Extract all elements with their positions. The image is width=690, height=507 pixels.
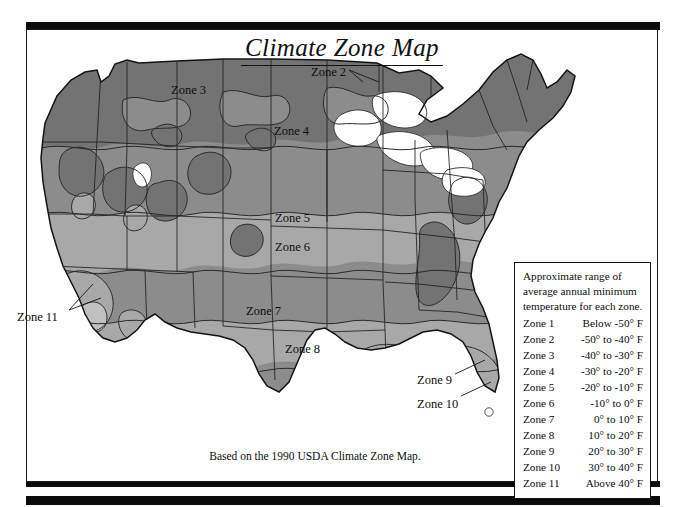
legend-zone-name: Zone 8 xyxy=(523,427,554,443)
map-label-zone-5: Zone 5 xyxy=(275,212,310,225)
map-label-zone-8: Zone 8 xyxy=(285,343,320,356)
legend-row: Zone 4-30° to -20° F xyxy=(523,363,643,379)
legend-heading-line-1: Approximate range of xyxy=(523,269,643,284)
legend-zone-name: Zone 11 xyxy=(523,475,560,491)
legend-zone-name: Zone 4 xyxy=(523,363,554,379)
legend-zone-range: -40° to -30° F xyxy=(581,347,643,363)
legend-zone-range: 0° to 10° F xyxy=(594,411,643,427)
map-plate: Climate Zone Map Zone 2Zone 3Zone 4Zone … xyxy=(26,29,658,482)
legend-box: Approximate range of average annual mini… xyxy=(514,262,651,499)
map-label-zone-9: Zone 9 xyxy=(417,374,452,387)
legend-zone-name: Zone 5 xyxy=(523,379,554,395)
map-label-zone-3: Zone 3 xyxy=(171,84,206,97)
legend-row: Zone 810° to 20° F xyxy=(523,427,643,443)
legend-zone-name: Zone 7 xyxy=(523,411,554,427)
legend-rows: Zone 1Below -50° FZone 2-50° to -40° FZo… xyxy=(523,315,643,491)
legend-zone-range: Below -50° F xyxy=(583,315,643,331)
map-label-zone-4: Zone 4 xyxy=(274,125,309,138)
legend-zone-name: Zone 6 xyxy=(523,395,554,411)
legend-row: Zone 2-50° to -40° F xyxy=(523,331,643,347)
map-caption: Based on the 1990 USDA Climate Zone Map. xyxy=(27,450,659,462)
legend-row: Zone 6-10° to 0° F xyxy=(523,395,643,411)
legend-row: Zone 70° to 10° F xyxy=(523,411,643,427)
legend-row: Zone 1Below -50° F xyxy=(523,315,643,331)
map-label-zone-2: Zone 2 xyxy=(311,66,346,79)
map-label-zone-10: Zone 10 xyxy=(417,398,458,411)
legend-zone-range: -20° to -10° F xyxy=(581,379,643,395)
legend-zone-range: -50° to -40° F xyxy=(581,331,643,347)
legend-row: Zone 5-20° to -10° F xyxy=(523,379,643,395)
map-caption-text: Based on the 1990 USDA Climate Zone Map. xyxy=(209,450,420,462)
legend-zone-name: Zone 1 xyxy=(523,315,554,331)
legend-zone-range: -10° to 0° F xyxy=(590,395,643,411)
legend-row: Zone 11Above 40° F xyxy=(523,475,643,491)
legend-zone-range: -30° to -20° F xyxy=(581,363,643,379)
legend-zone-range: 10° to 20° F xyxy=(588,427,643,443)
map-label-zone-7: Zone 7 xyxy=(246,305,281,318)
legend-heading-line-2: average annual minimum xyxy=(523,284,643,299)
legend-zone-name: Zone 3 xyxy=(523,347,554,363)
legend-heading: Approximate range of average annual mini… xyxy=(523,269,643,314)
legend-zone-name: Zone 2 xyxy=(523,331,554,347)
legend-heading-line-3: temperature for each zone. xyxy=(523,299,643,314)
legend-zone-range: Above 40° F xyxy=(586,475,643,491)
map-label-zone-6: Zone 6 xyxy=(275,241,310,254)
map-label-zone-11: Zone 11 xyxy=(17,311,58,324)
legend-row: Zone 3-40° to -30° F xyxy=(523,347,643,363)
